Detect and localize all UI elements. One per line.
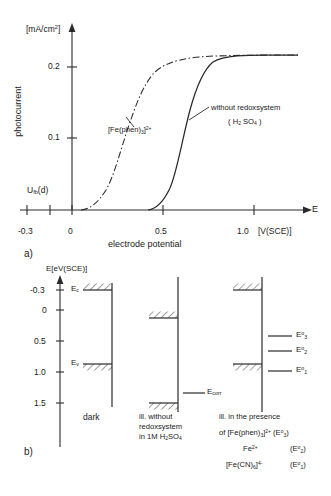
col1-caption-dark: dark [83,413,100,422]
col2-caption-line2: redoxsystem [139,423,182,431]
panel-b-diagram-svg [0,252,331,496]
x-axis-arrowhead [303,207,312,214]
series-label-without-redoxsystem: without redoxsystem [211,104,280,112]
col3-caption-right3: (Eo1) [290,461,306,470]
series-label-fe-phen: [Fe(phen)3]2+ [108,126,152,135]
redox-level-label-E2: Eo2 [296,346,307,355]
x-axis-unit: [V(SCE)] [258,227,292,236]
figure-root: [mA/cm2] photocurrent 0.2 0.1 Ufb(d) -0.… [0,0,331,496]
col2-caption-line1: ill. without [139,413,172,421]
flatband-potential-label: Ufb(d) [27,186,48,196]
col3-caption-line3: Fe2+ [243,445,258,453]
curve-without-redoxsystem [148,55,298,210]
col3-caption-line1: ill. in the presence [219,413,280,421]
col2-conduction-band-hatch [149,312,178,319]
energy-tick-label-0.5: 0.5 [34,336,46,346]
y-axis-title: photocurrent [14,86,23,137]
conduction-band-label-Ec: Ec [71,285,79,294]
col3-caption-line4: [Fe(CN)6]4- [226,461,262,470]
y-tick-label-0.1: 0.1 [48,133,60,142]
redox-level-label-E1: Eo1 [296,366,307,375]
panel-b-label: b) [24,447,33,457]
valence-band-label-Ev: Ev [71,359,79,368]
col3-valence-band-hatch [233,364,262,371]
series-label-h2so4: ( H2 SO4 ) [228,118,261,126]
col3-conduction-band-hatch [233,284,262,291]
col3-caption-line2: of [Fe(phen)3]2+ (Eo3) [219,429,289,438]
redox-level-label-E3: Eo3 [296,331,307,340]
col2-valence-band-hatch [149,403,178,410]
panel-a-photocurrent-chart: [mA/cm2] photocurrent 0.2 0.1 Ufb(d) -0.… [0,0,331,252]
col3-caption-right2: (Eo2) [290,445,306,454]
energy-tick-label-0: 0 [42,305,47,315]
col1-conduction-band-hatch [83,284,112,291]
leader-line-redoxsystem [189,107,209,120]
col2-caption-line3: in 1M H2SO4 [139,433,182,441]
y-axis-unit: [mA/cm2] [26,25,60,34]
energy-tick-label-1.5: 1.5 [34,398,46,408]
x-tick-label--0.3: -0.3 [18,227,33,236]
energy-tick-label--0.3: -0.3 [30,285,45,295]
panel-b-energy-diagram: E[eV(SCE)] -0.3 0 0.5 1.0 1.5 Ec Ev dark… [0,252,331,496]
x-tick-label-0.5: 0.5 [155,227,167,236]
y-tick-label-0.2: 0.2 [48,62,60,71]
energy-axis-arrowhead [57,275,64,284]
col1-valence-band-hatch [83,364,112,371]
col2-label-Ecorr: Ecorr [207,388,221,397]
x-axis-title: electrode potential [108,240,182,249]
panel-a-plot-svg [0,0,331,252]
energy-axis-title: E[eV(SCE)] [46,265,87,273]
x-axis-arrow-label: E [312,205,318,214]
x-tick-label-1.0: 1.0 [237,227,249,236]
energy-tick-label-1.0: 1.0 [34,367,46,377]
x-tick-label-0: 0 [68,227,73,236]
y-axis-arrowhead [69,23,76,32]
